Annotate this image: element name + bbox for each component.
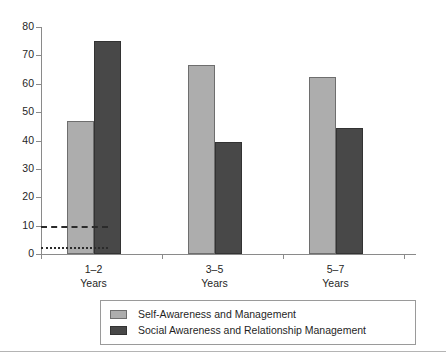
legend-item-social-awareness: Social Awareness and Relationship Manage…: [110, 322, 406, 338]
x-tick-mark: [41, 254, 42, 259]
reference-line-dotted: [41, 247, 108, 249]
x-category-label-2: 3–5Years: [175, 262, 255, 290]
x-category-unit: Years: [54, 276, 134, 290]
bar-chart-figure: 01020304050607080 1–2Years3–5Years5–7Yea…: [0, 0, 446, 362]
y-tick-mark: [36, 141, 41, 142]
y-tick-label: 80: [22, 20, 34, 33]
y-tick-label: 50: [22, 105, 34, 118]
y-tick-label: 0: [28, 247, 34, 260]
y-tick-label: 60: [22, 77, 34, 90]
bar-2-series-2: [215, 142, 242, 254]
legend-label-social-awareness: Social Awareness and Relationship Manage…: [138, 324, 366, 337]
legend-swatch-icon-social-awareness: [110, 326, 127, 335]
x-category-range: 3–5: [206, 263, 224, 275]
bar-3-series-2: [336, 128, 363, 254]
y-tick-mark: [36, 197, 41, 198]
x-tick-mark: [404, 254, 405, 259]
y-tick-mark: [36, 55, 41, 56]
footer-divider: [0, 351, 446, 352]
y-tick-label: 10: [22, 219, 34, 232]
y-tick-mark: [36, 84, 41, 85]
y-tick-label: 30: [22, 162, 34, 175]
x-category-range: 1–2: [85, 263, 103, 275]
x-category-unit: Years: [175, 276, 255, 290]
bar-3-series-1: [309, 77, 336, 254]
y-tick-label: 40: [22, 134, 34, 147]
y-tick-mark: [36, 27, 41, 28]
legend-swatch-icon-self-awareness: [110, 310, 127, 319]
legend-label-self-awareness: Self-Awareness and Management: [138, 308, 296, 321]
y-tick-label: 70: [22, 48, 34, 61]
x-category-range: 5–7: [327, 263, 345, 275]
x-category-label-1: 1–2Years: [54, 262, 134, 290]
bar-2-series-1: [188, 65, 215, 254]
legend-item-self-awareness: Self-Awareness and Management: [110, 306, 406, 322]
plot-area: 01020304050607080: [41, 27, 404, 254]
chart-legend: Self-Awareness and Management Social Awa…: [100, 300, 416, 345]
bar-1-series-2: [94, 41, 121, 254]
y-tick-mark: [36, 169, 41, 170]
x-tick-mark: [283, 254, 284, 259]
bar-1-series-1: [67, 121, 94, 254]
reference-line-dashed: [41, 226, 108, 228]
y-tick-mark: [36, 112, 41, 113]
x-category-label-3: 5–7Years: [296, 262, 376, 290]
x-tick-mark: [162, 254, 163, 259]
y-tick-label: 20: [22, 190, 34, 203]
x-category-unit: Years: [296, 276, 376, 290]
x-axis-line: [41, 254, 416, 255]
